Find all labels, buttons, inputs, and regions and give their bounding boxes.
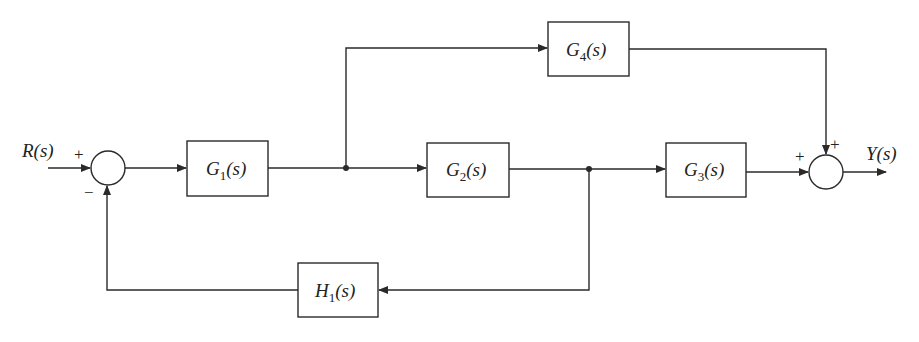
- s1-minus-sign: −: [84, 183, 94, 202]
- block-h1: H1(s): [298, 263, 378, 317]
- g4-to-s2-wire: [629, 49, 826, 154]
- input-label: R(s): [21, 140, 54, 162]
- s2-left-plus-sign: +: [795, 147, 805, 166]
- summing-junction-1: [91, 151, 125, 185]
- block-g3: G3(s): [666, 143, 746, 197]
- h1-to-s1-wire: [107, 186, 298, 290]
- block-g1: G1(s): [187, 141, 268, 196]
- block-diagram: R(s) + − G1(s) G4(s) + G2(s) G3(s) +: [0, 0, 919, 342]
- s2-top-plus-sign: +: [830, 135, 840, 154]
- block-g4: G4(s): [548, 22, 629, 76]
- output-label: Y(s): [866, 143, 897, 165]
- s1-plus-sign: +: [74, 145, 84, 164]
- summing-junction-2: [809, 155, 843, 189]
- block-g2: G2(s): [427, 143, 509, 197]
